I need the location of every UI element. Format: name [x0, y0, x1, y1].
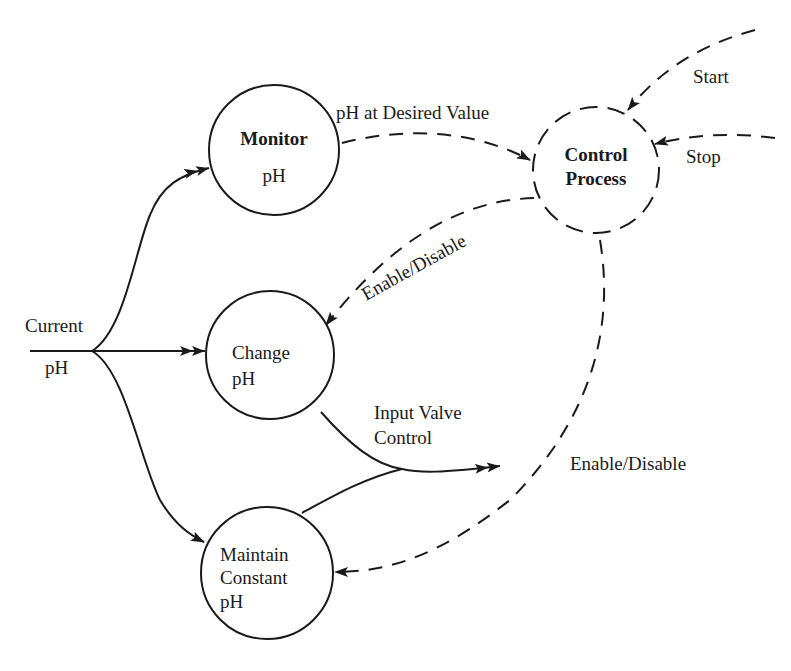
label-enable-disable-change: Enable/Disable	[358, 230, 470, 305]
label-enable-disable-maintain: Enable/Disable	[570, 453, 686, 474]
edge-monitor-to-control	[342, 133, 530, 160]
label-input-valve: Input Valve	[374, 402, 462, 423]
edge-start-to-control	[628, 30, 755, 110]
change-label-line2: pH	[232, 368, 256, 389]
label-stop: Stop	[686, 146, 721, 167]
node-maintain-constant-ph[interactable]: Maintain Constant pH	[201, 507, 333, 639]
label-ph-at-desired-value: pH at Desired Value	[336, 102, 489, 123]
edge-input-to-monitor	[92, 168, 209, 351]
current-ph-input-flows	[30, 168, 209, 542]
edge-input-to-maintain	[92, 351, 204, 542]
monitor-circle	[209, 85, 339, 215]
monitor-label-line2: pH	[262, 165, 286, 186]
edge-stop-to-control	[655, 135, 775, 144]
diagram-canvas: Current pH pH at Desired Value Start Sto…	[0, 0, 791, 671]
edge-maintain-to-output	[302, 469, 402, 513]
monitor-label-line1: Monitor	[240, 128, 308, 149]
maintain-label-line2: Constant	[220, 567, 288, 588]
maintain-label-line1: Maintain	[220, 544, 289, 565]
label-ph-input: pH	[45, 357, 69, 378]
control-label-line1: Control	[565, 144, 628, 165]
label-start: Start	[693, 66, 730, 87]
change-label-line1: Change	[232, 342, 290, 363]
control-label-line2: Process	[566, 168, 627, 189]
label-current: Current	[25, 315, 84, 336]
node-monitor-ph[interactable]: Monitor pH	[209, 85, 339, 215]
label-control: Control	[374, 427, 432, 448]
node-change-ph[interactable]: Change pH	[206, 291, 334, 419]
maintain-label-line3: pH	[220, 591, 244, 612]
node-control-process[interactable]: Control Process	[533, 107, 659, 233]
